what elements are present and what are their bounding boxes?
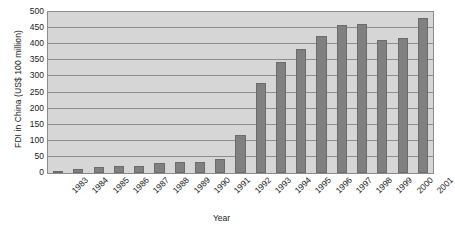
x-tick-label: 1986 <box>130 175 150 195</box>
gridline <box>48 108 433 109</box>
bar <box>114 166 124 173</box>
bar <box>195 162 205 173</box>
y-tick-label: 500 <box>30 6 44 16</box>
x-tick-label: 1983 <box>70 175 90 195</box>
gridline <box>48 43 433 44</box>
bar <box>296 49 306 173</box>
y-tick-label: 450 <box>30 22 44 32</box>
y-tick-label: 0 <box>39 167 44 177</box>
x-tick-label: 2001 <box>434 175 454 195</box>
bar <box>256 83 266 173</box>
y-axis-tick-labels: 050100150200250300350400450500 <box>18 0 44 180</box>
gridline <box>48 92 433 93</box>
gridline <box>48 124 433 125</box>
bar <box>398 38 408 173</box>
bar <box>134 166 144 173</box>
y-tick-label: 200 <box>30 103 44 113</box>
x-tick-label: 1997 <box>353 175 373 195</box>
x-tick-label: 1985 <box>110 175 130 195</box>
bar <box>175 162 185 173</box>
x-tick-label: 1998 <box>374 175 394 195</box>
bar <box>276 62 286 173</box>
y-tick-label: 300 <box>30 70 44 80</box>
x-tick-label: 2000 <box>414 175 434 195</box>
gridline <box>48 75 433 76</box>
x-tick-label: 1994 <box>293 175 313 195</box>
bar <box>357 24 367 173</box>
bar <box>154 163 164 173</box>
bar <box>215 159 225 173</box>
x-axis-title: Year <box>0 213 443 223</box>
x-tick-label: 1999 <box>394 175 414 195</box>
x-tick-label: 1989 <box>191 175 211 195</box>
bar <box>235 135 245 173</box>
y-tick-label: 150 <box>30 119 44 129</box>
bar <box>337 25 347 173</box>
y-tick-label: 250 <box>30 87 44 97</box>
y-tick-label: 100 <box>30 135 44 145</box>
plot-area <box>47 11 434 174</box>
x-tick-label: 1992 <box>252 175 272 195</box>
gridline <box>48 59 433 60</box>
x-tick-label: 1990 <box>212 175 232 195</box>
y-tick-label: 350 <box>30 54 44 64</box>
gridline <box>48 11 433 12</box>
x-tick-label: 1984 <box>90 175 110 195</box>
x-tick-label: 1987 <box>151 175 171 195</box>
x-tick-label: 1996 <box>333 175 353 195</box>
bar <box>377 40 387 173</box>
x-tick-label: 1993 <box>272 175 292 195</box>
x-tick-label: 1995 <box>313 175 333 195</box>
bar <box>418 18 428 173</box>
gridline <box>48 27 433 28</box>
y-tick-label: 50 <box>35 151 44 161</box>
y-tick-label: 400 <box>30 38 44 48</box>
bar <box>316 36 326 173</box>
x-tick-label: 1988 <box>171 175 191 195</box>
x-axis-tick-labels: 1983198419851986198719881989199019911992… <box>47 173 432 213</box>
x-tick-label: 1991 <box>232 175 252 195</box>
